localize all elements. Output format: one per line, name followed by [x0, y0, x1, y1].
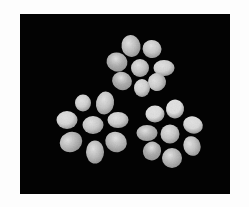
petal	[134, 79, 150, 97]
flower-center	[131, 59, 149, 77]
petal	[75, 95, 91, 112]
petal	[137, 125, 158, 141]
flower-center	[161, 125, 180, 144]
photo-frame	[0, 0, 249, 207]
petal	[146, 106, 165, 123]
flower-center	[83, 116, 104, 134]
petal	[108, 112, 129, 128]
flower-photo	[0, 0, 249, 207]
petal	[162, 148, 182, 168]
petal	[86, 141, 104, 164]
petal	[57, 111, 78, 129]
